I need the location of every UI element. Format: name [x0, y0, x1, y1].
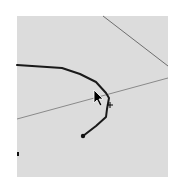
diagonal-guide-upper	[103, 16, 168, 66]
stray-dot	[17, 152, 19, 156]
diagonal-guide-middle	[17, 78, 168, 119]
mouse-pointer-icon	[94, 90, 103, 106]
stroke-end-dot	[81, 134, 85, 138]
drawing-layer	[0, 0, 180, 184]
